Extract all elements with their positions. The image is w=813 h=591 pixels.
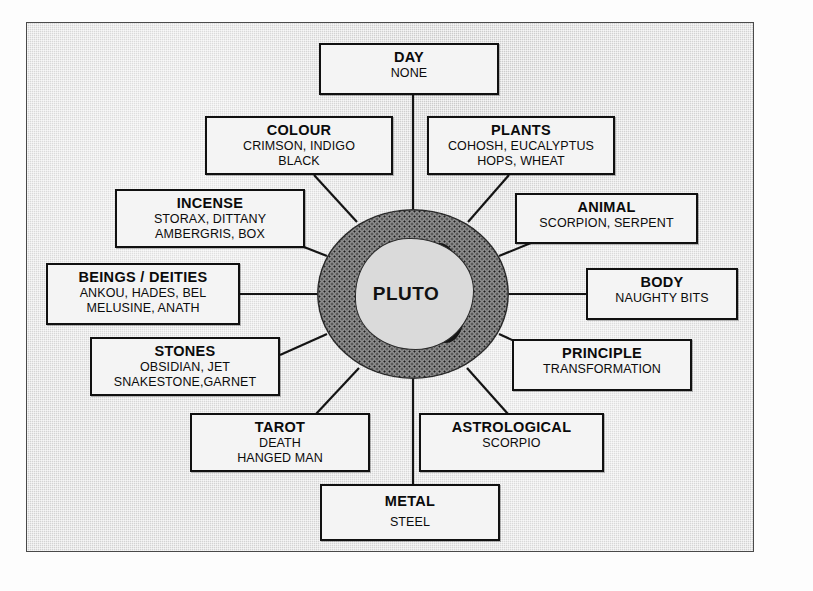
node-tarot-line-2: HANGED MAN bbox=[198, 451, 362, 465]
node-day[interactable]: DAY NONE bbox=[319, 43, 499, 95]
node-body-line-1: NAUGHTY BITS bbox=[594, 291, 730, 305]
node-metal[interactable]: METAL STEEL bbox=[320, 484, 500, 541]
node-stones-line-2: SNAKESTONE,GARNET bbox=[98, 375, 272, 389]
node-body-title: BODY bbox=[594, 274, 730, 290]
node-metal-title: METAL bbox=[328, 493, 492, 509]
node-principle[interactable]: PRINCIPLE TRANSFORMATION bbox=[512, 339, 692, 391]
node-tarot-title: TAROT bbox=[198, 419, 362, 435]
node-plants-line-2: HOPS, WHEAT bbox=[435, 154, 607, 168]
node-colour-line-2: BLACK bbox=[213, 154, 385, 168]
node-beings-line-1: ANKOU, HADES, BEL bbox=[54, 286, 232, 300]
center-label: PLUTO bbox=[317, 283, 509, 305]
connector-plants bbox=[468, 175, 509, 222]
node-day-line-1: NONE bbox=[327, 66, 491, 80]
node-tarot[interactable]: TAROT DEATH HANGED MAN bbox=[190, 413, 370, 472]
node-stones-line-1: OBSIDIAN, JET bbox=[98, 360, 272, 374]
node-plants-line-1: COHOSH, EUCALYPTUS bbox=[435, 139, 607, 153]
node-metal-line-1: STEEL bbox=[328, 515, 492, 529]
node-colour-line-1: CRIMSON, INDIGO bbox=[213, 139, 385, 153]
node-animal-line-1: SCORPION, SERPENT bbox=[523, 216, 690, 230]
node-animal[interactable]: ANIMAL SCORPION, SERPENT bbox=[515, 193, 698, 244]
node-beings-deities[interactable]: BEINGS / DEITIES ANKOU, HADES, BEL MELUS… bbox=[46, 263, 240, 325]
node-colour-title: COLOUR bbox=[213, 122, 385, 138]
diagram-frame: PLUTO DAY NONE COLOUR CRIMSON, INDIGO BL… bbox=[26, 22, 754, 552]
node-stones[interactable]: STONES OBSIDIAN, JET SNAKESTONE,GARNET bbox=[90, 337, 280, 396]
node-incense-line-1: STORAX, DITTANY bbox=[123, 212, 297, 226]
node-plants-title: PLANTS bbox=[435, 122, 607, 138]
node-incense-line-2: AMBERGRIS, BOX bbox=[123, 227, 297, 241]
node-principle-title: PRINCIPLE bbox=[520, 345, 684, 361]
connector-stones bbox=[280, 334, 327, 355]
node-astrological[interactable]: ASTROLOGICAL SCORPIO bbox=[419, 413, 604, 472]
node-plants[interactable]: PLANTS COHOSH, EUCALYPTUS HOPS, WHEAT bbox=[427, 116, 615, 175]
node-beings-title: BEINGS / DEITIES bbox=[54, 269, 232, 285]
node-beings-line-2: MELUSINE, ANATH bbox=[54, 301, 232, 315]
connector-tarot bbox=[316, 368, 359, 414]
diagram-page: PLUTO DAY NONE COLOUR CRIMSON, INDIGO BL… bbox=[0, 0, 813, 591]
node-day-title: DAY bbox=[327, 49, 491, 65]
node-body[interactable]: BODY NAUGHTY BITS bbox=[586, 268, 738, 320]
connector-astrological bbox=[467, 368, 508, 414]
node-incense-title: INCENSE bbox=[123, 195, 297, 211]
node-animal-title: ANIMAL bbox=[523, 199, 690, 215]
node-incense[interactable]: INCENSE STORAX, DITTANY AMBERGRIS, BOX bbox=[115, 189, 305, 248]
node-colour[interactable]: COLOUR CRIMSON, INDIGO BLACK bbox=[205, 116, 393, 175]
pluto-planet-icon: PLUTO bbox=[317, 209, 509, 379]
node-stones-title: STONES bbox=[98, 343, 272, 359]
node-astrological-line-1: SCORPIO bbox=[427, 436, 596, 450]
connector-colour bbox=[314, 175, 357, 222]
node-astrological-title: ASTROLOGICAL bbox=[427, 419, 596, 435]
node-tarot-line-1: DEATH bbox=[198, 436, 362, 450]
node-principle-line-1: TRANSFORMATION bbox=[520, 362, 684, 376]
